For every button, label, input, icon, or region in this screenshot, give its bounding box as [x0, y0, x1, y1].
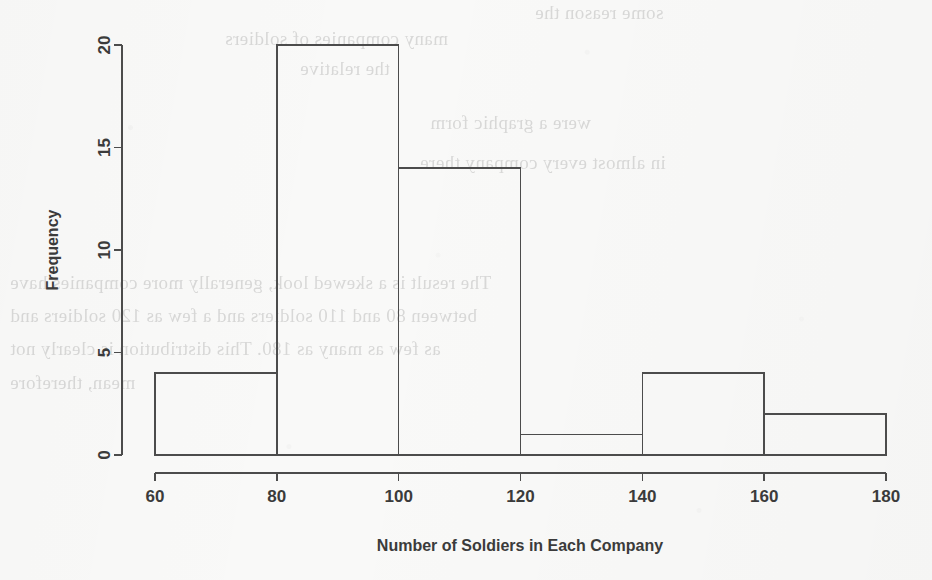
- y-axis-tick-label: 20: [95, 36, 114, 55]
- y-axis: 05101520: [95, 36, 122, 460]
- x-axis-tick-label: 140: [628, 487, 656, 506]
- x-axis-tick-label: 60: [146, 487, 165, 506]
- x-axis-tick-label: 100: [384, 487, 412, 506]
- y-axis-title: Frequency: [44, 209, 61, 290]
- histogram-bar: [642, 373, 764, 455]
- y-axis-tick-label: 0: [95, 450, 114, 459]
- x-axis-tick-label: 180: [872, 487, 900, 506]
- histogram-bar: [277, 45, 399, 455]
- x-axis-tick-label: 80: [267, 487, 286, 506]
- histogram-bar: [764, 414, 886, 455]
- histogram-bars: [155, 45, 886, 455]
- y-axis-tick-label: 15: [95, 138, 114, 157]
- histogram-bar: [399, 168, 521, 455]
- scanned-page: some reason the many companies of soldie…: [0, 0, 932, 580]
- x-axis-tick-label: 160: [750, 487, 778, 506]
- x-axis-tick-label: 120: [506, 487, 534, 506]
- histogram-svg: 05101520 6080100120140160180 Frequency N…: [0, 0, 932, 580]
- x-axis-title: Number of Soldiers in Each Company: [377, 537, 663, 554]
- x-axis: 6080100120140160180: [146, 473, 901, 506]
- y-axis-tick-label: 10: [95, 241, 114, 260]
- histogram-plot: 05101520 6080100120140160180 Frequency N…: [0, 0, 932, 580]
- histogram-bar: [521, 435, 643, 456]
- y-axis-tick-label: 5: [95, 348, 114, 357]
- histogram-bar: [155, 373, 277, 455]
